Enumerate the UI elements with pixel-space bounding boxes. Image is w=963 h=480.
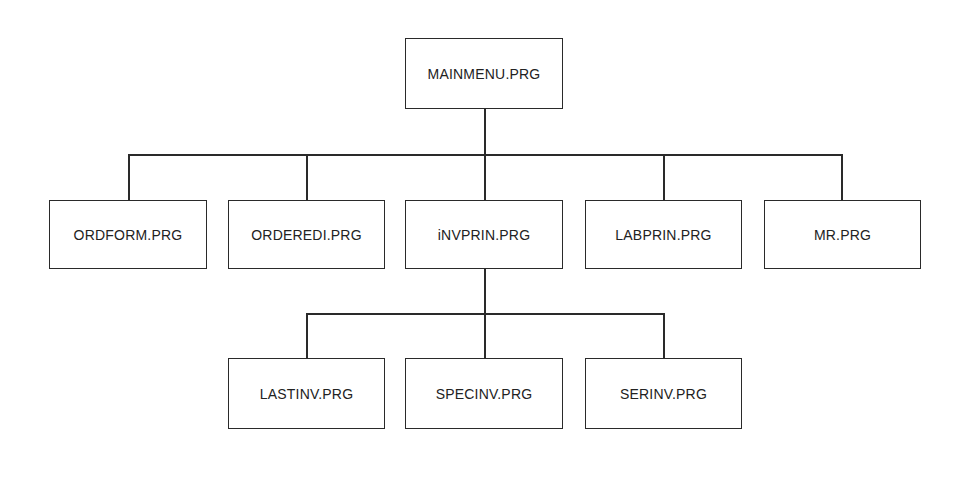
node-label: MAINMENU.PRG xyxy=(428,66,541,82)
node-label: SERINV.PRG xyxy=(620,386,707,402)
node-mainmenu: MAINMENU.PRG xyxy=(405,38,563,109)
node-label: LASTINV.PRG xyxy=(260,386,354,402)
connector-to-ordform xyxy=(128,154,130,200)
connector-invprin-down xyxy=(484,268,486,313)
connector-to-specinv xyxy=(484,313,486,358)
connector-to-mr xyxy=(841,154,843,200)
node-ordform: ORDFORM.PRG xyxy=(49,200,207,269)
node-label: ORDEREDI.PRG xyxy=(251,227,362,243)
node-mr: MR.PRG xyxy=(764,200,921,269)
node-label: SPECINV.PRG xyxy=(436,386,533,402)
connector-to-lastinv xyxy=(306,313,308,358)
connector-to-serinv xyxy=(663,313,665,358)
node-labprin: LABPRIN.PRG xyxy=(585,200,742,269)
node-label: LABPRIN.PRG xyxy=(615,227,711,243)
connector-to-orderedi xyxy=(306,154,308,200)
node-label: ORDFORM.PRG xyxy=(74,227,183,243)
node-invprin: iNVPRIN.PRG xyxy=(405,200,563,269)
connector-root-down xyxy=(484,108,486,154)
node-label: MR.PRG xyxy=(814,227,871,243)
connector-to-invprin xyxy=(484,154,486,200)
node-label: iNVPRIN.PRG xyxy=(438,227,530,243)
connector-to-labprin xyxy=(663,154,665,200)
node-serinv: SERINV.PRG xyxy=(585,358,742,429)
node-orderedi: ORDEREDI.PRG xyxy=(228,200,385,269)
node-specinv: SPECINV.PRG xyxy=(405,358,563,429)
node-lastinv: LASTINV.PRG xyxy=(228,358,385,429)
